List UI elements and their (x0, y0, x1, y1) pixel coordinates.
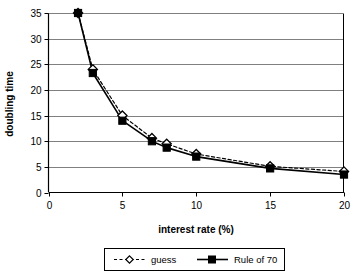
y-tick-label-15: 15 (30, 111, 42, 122)
y-tick-label-10: 10 (30, 136, 42, 147)
marker-rule-of-70-x2 (74, 9, 81, 16)
y-axis-title: doubling time (4, 71, 15, 137)
marker-rule-of-70-x5 (119, 117, 126, 124)
marker-rule-of-70-x10 (193, 153, 200, 160)
marker-rule-of-70-x15 (267, 165, 274, 172)
marker-rule-of-70-x20 (340, 171, 347, 178)
square-marker-icon (209, 256, 216, 263)
legend-item-rule-of-70[interactable]: Rule of 70 (197, 254, 277, 265)
chart-container: 05101520253035 05101520 interest rate (%… (0, 0, 353, 275)
x-tick-label-5: 5 (120, 200, 126, 211)
legend-label-guess: guess (151, 254, 177, 265)
y-tick-label-0: 0 (36, 188, 42, 199)
marker-rule-of-70-x3 (89, 69, 96, 76)
x-tick-label-15: 15 (265, 200, 277, 211)
marker-rule-of-70-x7 (148, 138, 155, 145)
y-tick-label-25: 25 (30, 59, 42, 70)
y-tick-label-30: 30 (30, 34, 42, 45)
y-tick-label-35: 35 (30, 8, 42, 19)
legend-label-rule-of-70: Rule of 70 (234, 254, 277, 265)
legend: guess Rule of 70 (105, 249, 285, 271)
x-tick-label-0: 0 (47, 200, 53, 211)
x-tick-label-10: 10 (191, 200, 203, 211)
x-tick-label-20: 20 (339, 200, 351, 211)
x-axis-title: interest rate (%) (158, 224, 234, 235)
y-tick-label-20: 20 (30, 85, 42, 96)
y-tick-label-5: 5 (36, 162, 42, 173)
doubling-time-line-chart: 05101520253035 05101520 interest rate (%… (0, 0, 353, 275)
marker-rule-of-70-x8 (163, 144, 170, 151)
